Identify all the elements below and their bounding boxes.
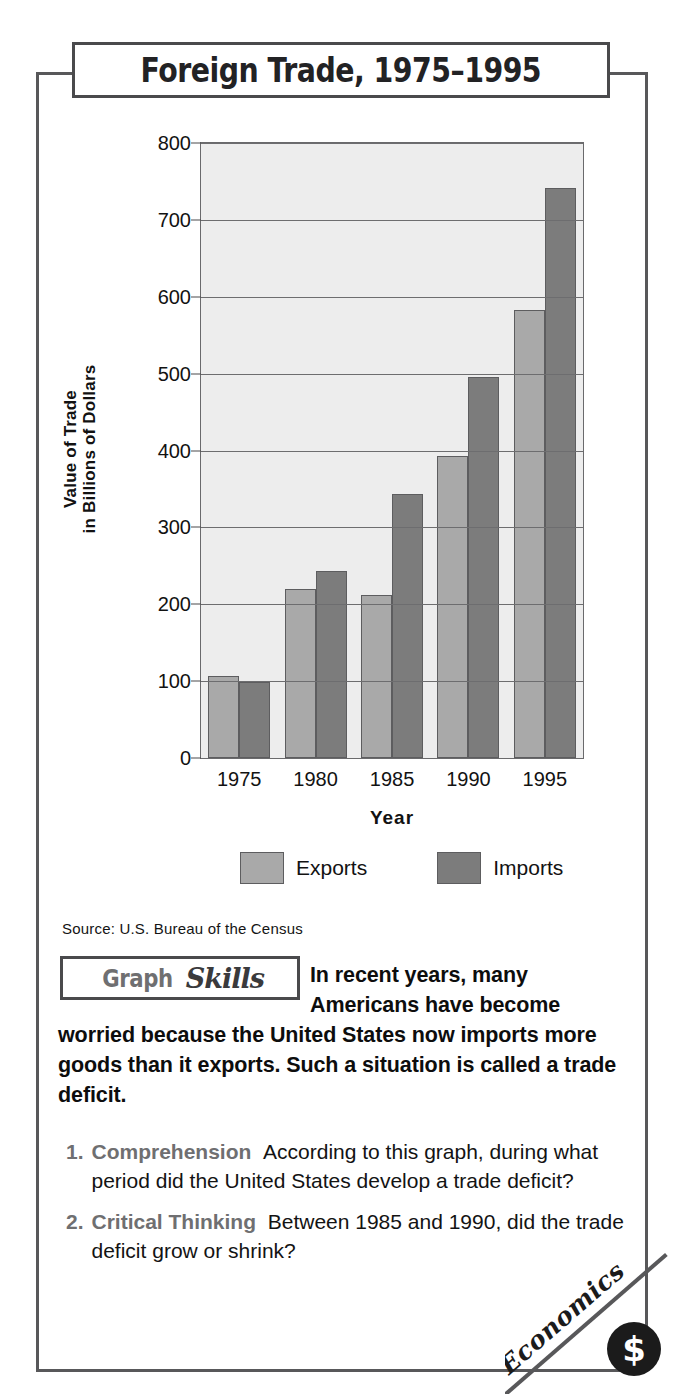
y-axis-title-line1: Value of Trade [61, 309, 80, 589]
bar-exports-1995 [514, 310, 545, 758]
y-tick-mark [191, 604, 201, 605]
economics-corner-badge: Economics $ [505, 1244, 681, 1394]
y-tick-mark [191, 758, 201, 759]
x-tick-label: 1995 [523, 768, 568, 791]
graph-skills-word1: Graph [102, 964, 172, 993]
source-note: Source: U.S. Bureau of the Census [62, 920, 303, 937]
gridline [201, 374, 583, 375]
bar-exports-1980 [285, 589, 316, 758]
y-tick-mark [191, 681, 201, 682]
y-tick-label: 700 [158, 208, 191, 231]
plot-area: 19751980198519901995 0100200300400500600… [200, 142, 584, 759]
bar-exports-1990 [437, 456, 468, 758]
y-tick-label: 200 [158, 593, 191, 616]
dollar-glyph: $ [622, 1332, 646, 1366]
y-tick-label: 0 [180, 747, 191, 770]
dollar-sign-icon: $ [607, 1322, 661, 1376]
graph-skills-badge: Graph Skills [60, 956, 300, 1000]
title-plaque: Foreign Trade, 1975–1995 [72, 42, 610, 98]
x-tick-label: 1980 [293, 768, 338, 791]
gridline [201, 143, 583, 144]
question-number: 1. [66, 1137, 84, 1195]
y-tick-mark [191, 296, 201, 297]
bar-imports-1985 [392, 494, 423, 758]
y-axis-title-line2: in Billions of Dollars [80, 309, 99, 589]
gridline [201, 220, 583, 221]
bar-imports-1995 [545, 188, 576, 758]
question-number: 2. [66, 1207, 84, 1265]
chart-legend: ExportsImports [200, 852, 660, 884]
gridline [201, 297, 583, 298]
bar-chart: Value of Trade in Billions of Dollars 19… [36, 100, 648, 860]
y-tick-label: 800 [158, 132, 191, 155]
graph-skills-word2: Skills [186, 963, 264, 994]
gridline [201, 681, 583, 682]
y-tick-mark [191, 527, 201, 528]
y-axis-title: Value of Trade in Billions of Dollars [61, 309, 99, 589]
gridline [201, 527, 583, 528]
gridline [201, 451, 583, 452]
bar-exports-1985 [361, 595, 392, 758]
x-axis-title: Year [200, 807, 584, 829]
legend-label: Exports [296, 856, 367, 880]
legend-label: Imports [493, 856, 563, 880]
worksheet-page: Foreign Trade, 1975–1995 Value of Trade … [0, 0, 684, 1397]
gridline [201, 604, 583, 605]
question-category: Comprehension [92, 1140, 264, 1163]
y-tick-label: 100 [158, 670, 191, 693]
x-tick-label: 1985 [370, 768, 415, 791]
legend-swatch [240, 852, 284, 884]
y-tick-mark [191, 143, 201, 144]
y-tick-label: 500 [158, 362, 191, 385]
y-tick-mark [191, 373, 201, 374]
question-body: Comprehension According to this graph, d… [92, 1137, 626, 1195]
y-tick-label: 600 [158, 285, 191, 308]
bar-imports-1990 [468, 377, 499, 758]
y-tick-mark [191, 450, 201, 451]
question-category: Critical Thinking [92, 1210, 268, 1233]
legend-item-exports: Exports [240, 852, 367, 884]
y-tick-label: 300 [158, 516, 191, 539]
legend-item-imports: Imports [437, 852, 563, 884]
bar-exports-1975 [208, 676, 239, 758]
x-tick-label: 1990 [446, 768, 491, 791]
bar-imports-1980 [316, 571, 347, 758]
question-item: 1.Comprehension According to this graph,… [66, 1137, 626, 1195]
page-title: Foreign Trade, 1975–1995 [141, 51, 542, 90]
x-tick-label: 1975 [217, 768, 262, 791]
bar-imports-1975 [239, 682, 270, 758]
legend-swatch [437, 852, 481, 884]
y-tick-mark [191, 219, 201, 220]
y-tick-label: 400 [158, 439, 191, 462]
